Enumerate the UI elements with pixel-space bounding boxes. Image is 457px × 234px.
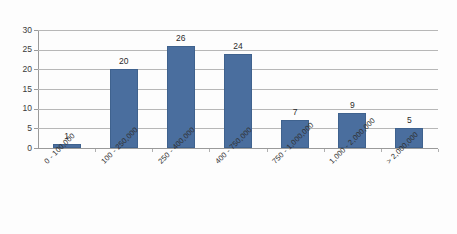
bar-chart: 051015202530 1202624795 0 - 100,000100 -… xyxy=(0,0,457,234)
y-axis-tick xyxy=(34,128,38,129)
y-axis-tick xyxy=(34,89,38,90)
x-axis-tick xyxy=(381,149,382,152)
y-axis-tick xyxy=(34,109,38,110)
y-axis-tick xyxy=(34,50,38,51)
x-axis-tick xyxy=(438,149,439,152)
x-axis-labels: 0 - 100,000100 - 250,000250 - 400,000400… xyxy=(0,0,457,234)
x-axis-category-label: 250 - 400,000 xyxy=(157,126,196,165)
y-axis-tick xyxy=(34,30,38,31)
x-axis-category-label: 750 - 1,000,000 xyxy=(271,121,315,165)
x-axis-category-label: > 2,000,000 xyxy=(385,131,420,166)
y-axis-tick xyxy=(34,69,38,70)
x-axis-category-label: 400 - 750,000 xyxy=(214,126,253,165)
x-axis-tick xyxy=(95,149,96,152)
x-axis-tick xyxy=(152,149,153,152)
x-axis-tick xyxy=(267,149,268,152)
x-axis-category-label: 1,000 - 2,000,000 xyxy=(328,117,377,166)
x-axis-category-label: 100 - 250,000 xyxy=(100,126,139,165)
x-axis-category-label: 0 - 100,000 xyxy=(43,132,76,165)
x-axis-tick xyxy=(324,149,325,152)
y-axis-tick xyxy=(34,148,38,149)
x-axis-tick xyxy=(209,149,210,152)
